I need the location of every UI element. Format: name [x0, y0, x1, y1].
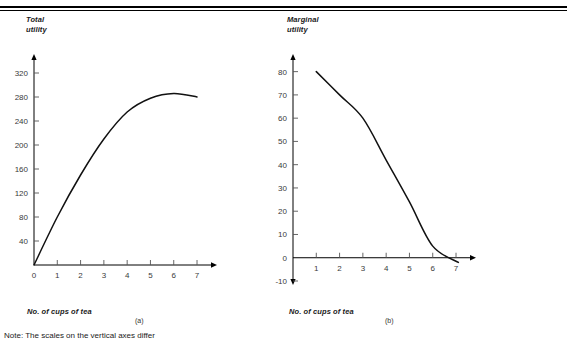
y-tick-label: 280 [15, 93, 29, 102]
x-tick-label: 1 [55, 271, 60, 280]
x-tick-label: 7 [195, 271, 200, 280]
x-tick-label: 4 [384, 264, 389, 273]
y-tick-label: 120 [15, 189, 29, 198]
x-tick-label: 1 [314, 264, 319, 273]
data-curve [34, 93, 197, 265]
x-tick-label: 2 [337, 264, 342, 273]
chart-marginal-utility: -10010203040506070801234567 [260, 0, 567, 349]
y-tick-label: 50 [278, 137, 287, 146]
y-axis-arrow-down-icon [290, 279, 295, 285]
data-curve [316, 72, 458, 263]
y-tick-label: 80 [19, 213, 28, 222]
y-tick-label: 60 [278, 114, 287, 123]
y-axis-arrow-icon [290, 54, 295, 60]
x-tick-label: 6 [172, 271, 177, 280]
panel-marginal-utility: Marginal utility No. of cups of tea (b) … [260, 0, 567, 349]
y-tick-label: 20 [278, 207, 287, 216]
y-tick-label: 200 [15, 141, 29, 150]
y-tick-label: 0 [283, 254, 288, 263]
y-tick-label: 320 [15, 69, 29, 78]
x-tick-label: 3 [102, 271, 107, 280]
y-tick-label: 160 [15, 165, 29, 174]
x-tick-label: 4 [125, 271, 130, 280]
y-tick-label: 30 [278, 184, 287, 193]
y-tick-label: -10 [275, 277, 287, 286]
y-axis-arrow-icon [31, 54, 36, 60]
y-tick-label: 240 [15, 117, 29, 126]
x-tick-label: 6 [431, 264, 436, 273]
figure-note: Note: The scales on the vertical axes di… [4, 331, 155, 340]
y-tick-label: 70 [278, 91, 287, 100]
y-tick-label: 80 [278, 68, 287, 77]
x-axis-arrow-icon [470, 255, 476, 261]
x-tick-label: 5 [407, 264, 412, 273]
x-tick-label: 5 [148, 271, 153, 280]
y-tick-label: 40 [19, 237, 28, 246]
x-tick-label: 0 [32, 271, 37, 280]
x-tick-label: 7 [454, 264, 459, 273]
y-tick-label: 40 [278, 161, 287, 170]
x-tick-label: 3 [361, 264, 366, 273]
panel-total-utility: Total utility No. of cups of tea (a) 408… [0, 0, 283, 349]
chart-total-utility: 408012016020024028032001234567 [0, 0, 283, 349]
y-tick-label: 10 [278, 230, 287, 239]
figure-container: Total utility No. of cups of tea (a) 408… [0, 0, 567, 349]
x-tick-label: 2 [78, 271, 83, 280]
x-axis-arrow-icon [211, 262, 217, 268]
